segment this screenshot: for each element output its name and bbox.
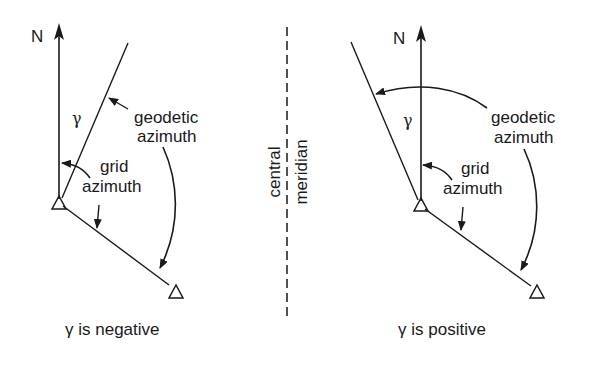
central-meridian-label: central <box>265 146 284 197</box>
geodetic-azimuth-arc <box>521 149 537 270</box>
grid-pointer-arrow <box>97 205 99 228</box>
geodetic-label: geodetic <box>491 108 556 127</box>
geodetic-pointer-arrow <box>109 98 128 109</box>
geodetic-label: geodetic <box>134 108 199 127</box>
central-meridian-label-2: meridian <box>292 139 311 204</box>
geodetic-azimuth-arc <box>160 147 175 268</box>
gamma-label: γ <box>72 109 82 128</box>
grid-label: grid <box>461 159 489 178</box>
grid-pointer-arrow <box>461 207 463 230</box>
station-line <box>425 209 531 286</box>
geodetic-label-2: azimuth <box>137 127 197 146</box>
caption-left: γ is negative <box>65 320 160 339</box>
station-triangle-icon <box>530 285 544 298</box>
station-line <box>63 206 169 285</box>
station-triangle-icon <box>169 285 183 298</box>
azimuth-diagram: N γ geodetic azimuth grid azimuth γ is n… <box>0 0 590 368</box>
grid-label-2: azimuth <box>82 177 142 196</box>
grid-label-2: azimuth <box>443 179 503 198</box>
grid-pointer-arc <box>423 165 452 180</box>
north-label: N <box>393 29 405 48</box>
right-panel: N γ geodetic azimuth grid azimuth γ is p… <box>351 25 556 339</box>
geodetic-pointer-arc <box>376 87 487 108</box>
left-panel: N γ geodetic azimuth grid azimuth γ is n… <box>31 23 199 339</box>
central-meridian: central meridian <box>265 27 311 317</box>
gamma-label: γ <box>403 111 413 130</box>
grid-label: grid <box>100 157 128 176</box>
geodetic-label-2: azimuth <box>494 128 554 147</box>
north-label: N <box>31 27 43 46</box>
caption-right: γ is positive <box>398 320 486 339</box>
